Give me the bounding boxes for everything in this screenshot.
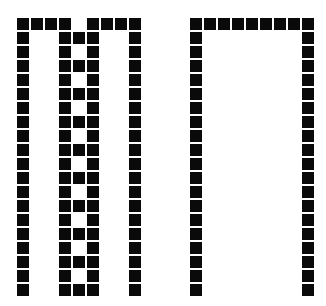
grid-cell-empty	[204, 200, 216, 212]
grid-cell-empty	[45, 186, 57, 198]
grid-cell-empty	[274, 284, 286, 296]
grid-cell-filled	[73, 228, 85, 240]
grid-cell-filled	[232, 18, 244, 30]
grid-cell-empty	[45, 60, 57, 72]
grid-cell-empty	[274, 60, 286, 72]
grid-cell-filled	[59, 60, 71, 72]
grid-cell-filled	[190, 270, 202, 282]
grid-cell-filled	[129, 214, 141, 226]
grid-cell-filled	[190, 200, 202, 212]
grid-cell-empty	[31, 256, 43, 268]
grid-cell-filled	[87, 88, 99, 100]
grid-cell-empty	[274, 130, 286, 142]
grid-cell-filled	[59, 256, 71, 268]
grid-cell-empty	[31, 60, 43, 72]
grid-cell-empty	[246, 214, 258, 226]
grid-cell-filled	[17, 270, 29, 282]
grid-cell-empty	[115, 256, 127, 268]
grid-cell-empty	[115, 186, 127, 198]
grid-cell-filled	[17, 116, 29, 128]
grid-cell-filled	[73, 200, 85, 212]
grid-cell-filled	[87, 200, 99, 212]
grid-cell-filled	[274, 18, 286, 30]
grid-cell-filled	[59, 102, 71, 114]
grid-cell-empty	[274, 228, 286, 240]
grid-cell-empty	[232, 32, 244, 44]
grid-cell-empty	[246, 144, 258, 156]
grid-cell-empty	[232, 270, 244, 282]
grid-cell-empty	[218, 88, 230, 100]
grid-cell-empty	[232, 60, 244, 72]
grid-cell-filled	[129, 88, 141, 100]
grid-cell-empty	[232, 46, 244, 58]
grid-cell-empty	[45, 102, 57, 114]
grid-cell-empty	[246, 228, 258, 240]
grid-cell-empty	[288, 32, 300, 44]
grid-cell-filled	[59, 116, 71, 128]
grid-cell-empty	[204, 144, 216, 156]
grid-cell-empty	[101, 270, 113, 282]
grid-cell-empty	[260, 74, 272, 86]
grid-cell-empty	[274, 46, 286, 58]
grid-cell-empty	[101, 158, 113, 170]
grid-cell-empty	[101, 116, 113, 128]
grid-cell-filled	[190, 144, 202, 156]
grid-cell-empty	[73, 102, 85, 114]
grid-cell-filled	[302, 242, 314, 254]
grid-cell-empty	[232, 284, 244, 296]
grid-cell-filled	[87, 214, 99, 226]
grid-cell-empty	[204, 46, 216, 58]
grid-cell-filled	[17, 256, 29, 268]
grid-cell-empty	[218, 46, 230, 58]
pixel-grid-canvas	[0, 0, 326, 306]
grid-cell-filled	[190, 214, 202, 226]
grid-cell-filled	[302, 270, 314, 282]
grid-cell-filled	[129, 284, 141, 296]
grid-cell-empty	[115, 116, 127, 128]
grid-cell-empty	[115, 102, 127, 114]
grid-cell-empty	[31, 284, 43, 296]
grid-cell-empty	[31, 270, 43, 282]
grid-cell-empty	[204, 228, 216, 240]
grid-cell-empty	[45, 144, 57, 156]
grid-cell-empty	[246, 186, 258, 198]
grid-cell-empty	[204, 270, 216, 282]
grid-cell-filled	[17, 228, 29, 240]
grid-cell-filled	[302, 186, 314, 198]
grid-cell-filled	[302, 172, 314, 184]
grid-cell-empty	[45, 74, 57, 86]
grid-cell-empty	[31, 242, 43, 254]
grid-cell-empty	[260, 228, 272, 240]
grid-cell-empty	[274, 116, 286, 128]
grid-cell-filled	[59, 18, 71, 30]
grid-cell-empty	[45, 242, 57, 254]
grid-cell-filled	[288, 18, 300, 30]
grid-cell-empty	[45, 270, 57, 282]
grid-cell-empty	[115, 200, 127, 212]
grid-cell-filled	[129, 228, 141, 240]
grid-cell-empty	[45, 200, 57, 212]
grid-cell-empty	[288, 172, 300, 184]
grid-cell-empty	[45, 88, 57, 100]
grid-cell-empty	[246, 242, 258, 254]
grid-cell-filled	[73, 116, 85, 128]
grid-cell-empty	[204, 102, 216, 114]
grid-cell-empty	[288, 214, 300, 226]
grid-cell-empty	[45, 284, 57, 296]
grid-cell-empty	[246, 46, 258, 58]
grid-cell-filled	[59, 284, 71, 296]
grid-cell-empty	[73, 130, 85, 142]
grid-cell-filled	[17, 130, 29, 142]
grid-cell-empty	[246, 60, 258, 72]
glyph-m-bar-left	[17, 18, 141, 296]
grid-cell-empty	[204, 242, 216, 254]
grid-cell-filled	[302, 284, 314, 296]
grid-cell-empty	[274, 102, 286, 114]
grid-cell-filled	[87, 270, 99, 282]
grid-cell-empty	[232, 214, 244, 226]
grid-cell-empty	[204, 88, 216, 100]
grid-cell-filled	[129, 46, 141, 58]
grid-cell-empty	[274, 74, 286, 86]
grid-cell-empty	[101, 144, 113, 156]
grid-cell-empty	[218, 214, 230, 226]
